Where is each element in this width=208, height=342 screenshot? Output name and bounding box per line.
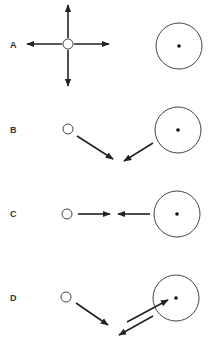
nucleus-dot [176, 128, 180, 132]
panel-label: A [10, 40, 17, 50]
arrow-icon [119, 316, 153, 335]
nucleus-dot [177, 44, 181, 48]
panel-label: C [10, 209, 17, 219]
nucleus-dot [174, 296, 178, 300]
small-particle [63, 124, 73, 134]
small-particle [62, 209, 72, 219]
small-particle [63, 39, 73, 49]
arrow-icon [124, 143, 153, 161]
panel-d: D [10, 275, 199, 335]
panel-c: C [10, 191, 200, 237]
panel-label: B [10, 125, 17, 135]
panel-a: A [10, 5, 202, 86]
arrow-icon [77, 136, 113, 159]
panel-b: B [10, 107, 201, 161]
panel-label: D [10, 293, 17, 303]
arrow-icon [76, 303, 108, 325]
collision-diagram: ABCD [0, 0, 208, 342]
nucleus-dot [175, 212, 179, 216]
small-particle [61, 292, 71, 302]
